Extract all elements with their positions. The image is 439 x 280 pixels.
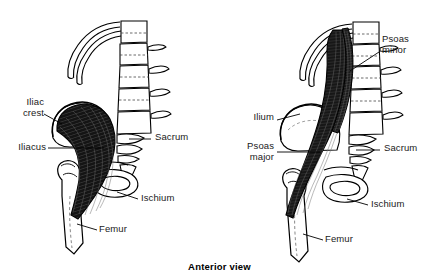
transverse-process xyxy=(380,46,403,120)
ischium xyxy=(323,175,368,203)
label-ischium-left: Ischium xyxy=(141,193,174,204)
anatomy-figure: Iliac crest Iliacus Sacrum Ischium Femur… xyxy=(0,0,439,280)
label-femur-left: Femur xyxy=(99,224,127,235)
sacrum xyxy=(117,134,144,163)
label-iliac-crest: Iliac crest xyxy=(8,97,44,118)
sacrum xyxy=(349,135,376,164)
lumbar-vertebrae xyxy=(349,22,383,135)
label-iliacus: Iliacus xyxy=(0,142,46,153)
transverse-process xyxy=(148,45,171,119)
label-ilium: Ilium xyxy=(236,112,274,123)
lumbar-vertebrae xyxy=(117,21,151,134)
left-figure xyxy=(44,21,171,254)
label-femur-right: Femur xyxy=(325,234,353,245)
label-psoas-minor: Psoas minor xyxy=(382,34,436,55)
label-sacrum-left: Sacrum xyxy=(155,132,188,143)
label-psoas-major: Psoas major xyxy=(228,141,274,162)
label-ischium-right: Ischium xyxy=(371,199,404,210)
anatomy-illustration xyxy=(0,0,439,280)
figure-caption: Anterior view xyxy=(0,261,439,272)
label-sacrum-right: Sacrum xyxy=(384,143,417,154)
